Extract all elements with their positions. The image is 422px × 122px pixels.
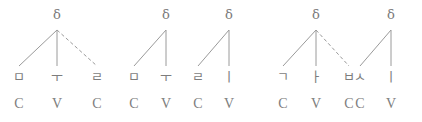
cv-tier-label: C bbox=[86, 96, 108, 111]
cv-tier-label: V bbox=[218, 96, 240, 111]
segment-glyph: ㅁ bbox=[123, 70, 145, 84]
tree-branch-solid bbox=[360, 30, 391, 66]
segment-glyph: ㄱ bbox=[272, 70, 294, 84]
cv-tier-label: C bbox=[123, 96, 145, 111]
cv-tier-label: C bbox=[272, 96, 294, 111]
syllable-node-delta: δ bbox=[219, 8, 239, 22]
syllable-node-delta: δ bbox=[156, 8, 176, 22]
cv-tier-label: V bbox=[305, 96, 327, 111]
segment-glyph: ㄹ bbox=[86, 70, 108, 84]
tree-branch-solid bbox=[134, 30, 166, 66]
segment-glyph: ㅅ bbox=[349, 70, 371, 84]
cv-tier-label: V bbox=[46, 96, 68, 111]
segment-glyph: ㅣ bbox=[380, 70, 402, 84]
tree-branch-solid bbox=[283, 30, 316, 66]
segment-glyph: ㅣ bbox=[218, 70, 240, 84]
segment-glyph: ㅏ bbox=[305, 70, 327, 84]
cv-tier-label: V bbox=[380, 96, 402, 111]
segment-glyph: ㅁ bbox=[8, 70, 30, 84]
segment-glyph: ㄹ bbox=[187, 70, 209, 84]
syllable-node-delta: δ bbox=[381, 8, 401, 22]
tree-branch-dashed bbox=[57, 30, 97, 66]
cv-tier-label: C bbox=[8, 96, 30, 111]
segment-glyph: ㅜ bbox=[46, 70, 68, 84]
tree-branch-solid bbox=[198, 30, 229, 66]
cv-tier-label: V bbox=[155, 96, 177, 111]
tree-branch-solid bbox=[19, 30, 57, 66]
cv-tier-label: C bbox=[187, 96, 209, 111]
segment-glyph: ㅜ bbox=[155, 70, 177, 84]
syllable-node-delta: δ bbox=[47, 8, 67, 22]
syllable-node-delta: δ bbox=[306, 8, 326, 22]
cv-tier-label: C bbox=[349, 96, 371, 111]
tree-branch-dashed bbox=[316, 30, 349, 66]
syllable-structure-diagram: δδδδδ ㅁㅜㄹㅁㅜㄹㅣㄱㅏㅂㅅㅣ CVCCVCVCVCCV bbox=[0, 0, 422, 122]
